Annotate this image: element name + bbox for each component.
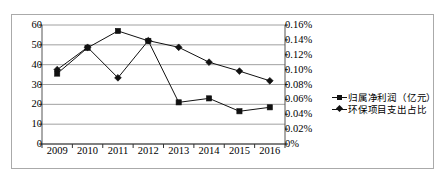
left-axis-tick: 40 [32,59,43,70]
right-axis-tick: 0.12% [285,50,312,61]
right-axis-tick: 0.10% [285,64,312,75]
legend-item-net-profit[interactable]: 归属净利润（亿元） [332,92,432,103]
right-axis-tick: 0.08% [285,79,312,90]
legend-label-net-profit: 归属净利润（亿元） [348,92,436,103]
x-axis-tick: 2011 [108,146,129,157]
left-axis-tick: 30 [32,79,43,90]
diamond-marker-icon [332,105,347,114]
square-marker-icon [332,93,347,102]
x-axis-tick: 2010 [77,146,98,157]
right-axis-tick: 0.16% [285,20,312,31]
x-axis-tick: 2012 [138,146,159,157]
right-axis-tick: 0.06% [285,94,312,105]
legend-label-env-spend-ratio: 环保项目支出占比 [348,104,426,115]
left-axis-tick: 20 [32,99,43,110]
legend-item-env-spend-ratio[interactable]: 环保项目支出占比 [332,104,432,115]
x-axis-tick: 2009 [47,146,68,157]
left-axis-tick: 10 [32,119,43,130]
chart-legend: 归属净利润（亿元） 环保项目支出占比 [332,92,432,116]
x-axis-tick-labels: 20092010201120122013201420152016 [0,146,444,164]
right-axis-tick: 0.14% [285,35,312,46]
right-axis-tick: 0.02% [285,124,312,135]
left-axis-tick: 50 [32,40,43,51]
x-axis-tick: 2013 [168,146,189,157]
x-axis-tick: 2015 [229,146,250,157]
left-axis-tick: 60 [32,20,43,31]
right-axis-tick: 0.04% [285,109,312,120]
x-axis-tick: 2016 [259,146,280,157]
x-axis-tick: 2014 [199,146,220,157]
